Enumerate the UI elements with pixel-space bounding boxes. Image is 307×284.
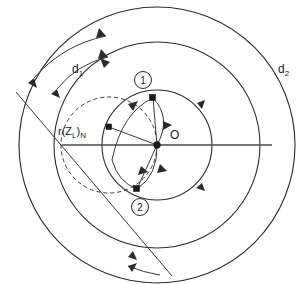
marker-1: 1 bbox=[135, 72, 152, 89]
distance-2-text: d bbox=[278, 62, 285, 76]
point-origin-dot bbox=[154, 142, 161, 149]
marker-2-label: 2 bbox=[137, 202, 143, 213]
distance-1-label: d1 bbox=[72, 62, 84, 78]
oblique-arrow-lower bbox=[128, 251, 137, 260]
svg-text:r(ZL)N: r(ZL)N bbox=[58, 125, 86, 140]
origin-label: O bbox=[170, 128, 179, 142]
reflection-coefficient-label: r(ZL)N bbox=[58, 125, 86, 140]
reflection-norm-subscript: N bbox=[80, 131, 86, 140]
point-1-dot bbox=[150, 95, 156, 101]
distance-2-subscript: 2 bbox=[285, 69, 290, 78]
arc-load-to-point2 bbox=[112, 160, 137, 189]
arc-d2-upper bbox=[34, 36, 106, 78]
arc-d2-lower-arrow bbox=[128, 263, 137, 272]
inner-circle-arrow-bottom bbox=[196, 183, 205, 191]
distance-1-text: d bbox=[72, 62, 79, 76]
inner-circle-arrow-top bbox=[197, 100, 205, 109]
figure-root: 1 2 O d1 d2 r(ZL)N bbox=[0, 0, 307, 284]
arc-arrow-lower-right bbox=[157, 164, 167, 173]
ray-o-to-point1 bbox=[153, 98, 157, 145]
ray-o-to-load bbox=[109, 127, 157, 145]
arc-d1-arrow-end bbox=[51, 89, 60, 98]
distance-1-subscript: 1 bbox=[79, 69, 84, 78]
marker-1-label: 1 bbox=[140, 75, 146, 86]
reflection-prefix-text: r(Z bbox=[58, 125, 72, 137]
svg-text:d1: d1 bbox=[72, 62, 84, 78]
point-load-dot bbox=[106, 124, 112, 130]
oblique-axis bbox=[16, 92, 172, 276]
svg-text:d2: d2 bbox=[278, 62, 290, 78]
point-2-dot bbox=[134, 186, 140, 192]
oblique-arrow-upper bbox=[100, 58, 110, 68]
polar-diagram: 1 2 O d1 d2 r(ZL)N bbox=[0, 0, 307, 284]
distance-2-label: d2 bbox=[278, 62, 290, 78]
marker-2: 2 bbox=[132, 199, 149, 216]
